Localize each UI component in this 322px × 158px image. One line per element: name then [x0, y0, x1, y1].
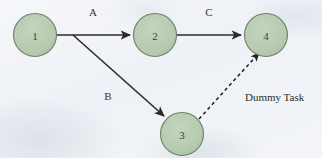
node-3[interactable]: 3 [161, 113, 204, 156]
network-diagram-graph: 1 2 3 4 A C B Dummy Task [0, 0, 322, 158]
node-1-label: 1 [32, 30, 38, 42]
node-1[interactable]: 1 [14, 14, 57, 57]
node-4-label: 4 [263, 30, 269, 42]
node-4[interactable]: 4 [245, 14, 288, 57]
edge-c-label: C [205, 6, 212, 18]
node-2-label: 2 [152, 30, 158, 42]
edge-dummy-line[interactable] [199, 53, 259, 119]
edge-a-label: A [89, 6, 97, 18]
diagram-canvas: 1 2 3 4 A C B Dummy Task [0, 0, 322, 158]
node-3-label: 3 [179, 129, 185, 141]
edge-b-label: B [104, 90, 111, 102]
edge-dummy-label: Dummy Task [245, 91, 305, 103]
node-2[interactable]: 2 [134, 14, 177, 57]
node-group: 1 2 3 4 [14, 14, 288, 156]
